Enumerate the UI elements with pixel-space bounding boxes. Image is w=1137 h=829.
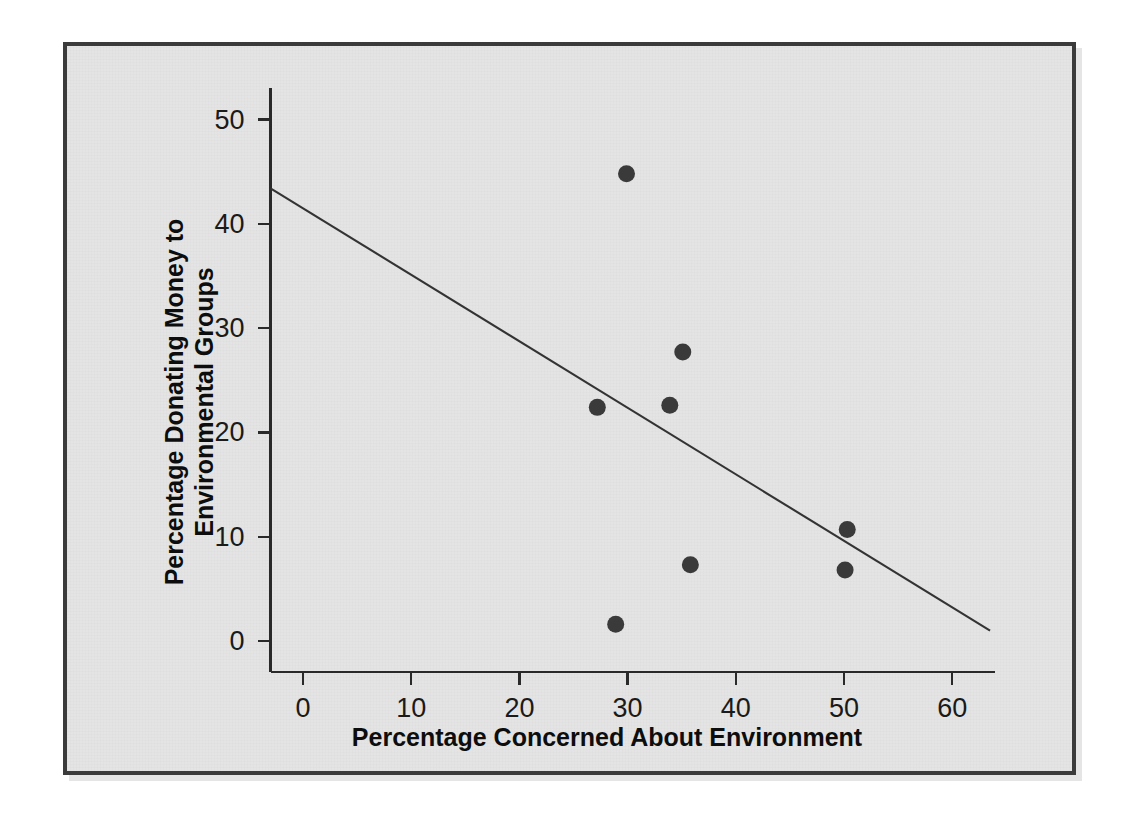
- y-axis-ticks: 01020304050: [214, 105, 270, 657]
- y-axis-title: Percentage Donating Money to Environment…: [160, 219, 218, 586]
- y-tick-label: 50: [214, 105, 244, 135]
- x-tick-label: 50: [829, 693, 859, 723]
- data-point: [661, 397, 678, 414]
- data-point: [607, 616, 624, 633]
- x-tick-label: 0: [295, 693, 310, 723]
- y-tick-label: 40: [214, 209, 244, 239]
- trend-line-group: [271, 188, 991, 630]
- x-axis-title: Percentage Concerned About Environment: [352, 723, 863, 751]
- x-tick-label: 40: [721, 693, 751, 723]
- figure-frame: Percentage Donating Money to Environment…: [63, 42, 1076, 775]
- data-point: [839, 521, 856, 538]
- data-points-group: [589, 165, 856, 633]
- scatter-chart: Percentage Donating Money to Environment…: [67, 46, 1072, 771]
- y-tick-label: 10: [214, 522, 244, 552]
- plot-surface: Percentage Donating Money to Environment…: [67, 46, 1072, 771]
- data-point: [618, 165, 635, 182]
- y-tick-label: 20: [214, 417, 244, 447]
- y-axis-title-line-2: Environmental Groups: [190, 267, 218, 536]
- data-point: [674, 344, 691, 361]
- y-tick-label: 30: [214, 313, 244, 343]
- x-tick-label: 20: [504, 693, 534, 723]
- data-point: [837, 562, 854, 579]
- x-tick-label: 60: [937, 693, 967, 723]
- trend-line: [271, 188, 991, 630]
- data-point: [589, 399, 606, 416]
- x-axis-ticks: 0102030405060: [295, 672, 967, 723]
- x-tick-label: 30: [613, 693, 643, 723]
- figure-root: Percentage Donating Money to Environment…: [0, 0, 1137, 829]
- y-axis-title-line-1: Percentage Donating Money to: [160, 219, 188, 586]
- data-point: [682, 556, 699, 573]
- y-tick-label: 0: [230, 626, 245, 656]
- x-tick-label: 10: [396, 693, 426, 723]
